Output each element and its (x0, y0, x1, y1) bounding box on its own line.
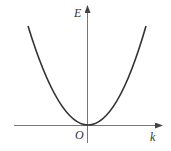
x-axis-label: k (150, 130, 156, 144)
parabola-diagram: E k O (0, 0, 171, 151)
parabola-curve (28, 26, 146, 125)
origin-label: O (75, 128, 84, 142)
y-axis-label: E (73, 6, 82, 20)
